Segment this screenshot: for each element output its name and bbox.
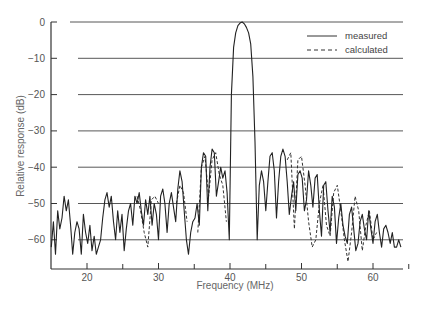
y-tick-label: −40 (28, 162, 45, 173)
frequency-response-chart: 0−10−20−30−40−50−60 2030405060 Frequency… (0, 0, 440, 309)
y-tick-label: −60 (28, 234, 45, 245)
series-measured-path (51, 22, 401, 254)
x-tick-label: 30 (153, 272, 165, 283)
y-axis-title: Relative response (dB) (15, 95, 26, 197)
y-tick-label: 0 (39, 17, 45, 28)
axes (51, 22, 403, 269)
legend-calculated-label: calculated (345, 44, 388, 55)
y-axis-ticks: 0−10−20−30−40−50−60 (28, 17, 57, 246)
x-tick-label: 60 (367, 272, 379, 283)
series-measured-line (51, 22, 401, 254)
legend-measured-label: measured (345, 30, 387, 41)
x-tick-label: 20 (81, 272, 93, 283)
y-tick-label: −20 (28, 89, 45, 100)
x-tick-label: 50 (296, 272, 308, 283)
x-axis-title: Frequency (MHz) (196, 280, 273, 291)
y-tick-label: −30 (28, 125, 45, 136)
y-tick-label: −10 (28, 53, 45, 64)
y-tick-label: −50 (28, 198, 45, 209)
legend: measured calculated (307, 30, 388, 55)
